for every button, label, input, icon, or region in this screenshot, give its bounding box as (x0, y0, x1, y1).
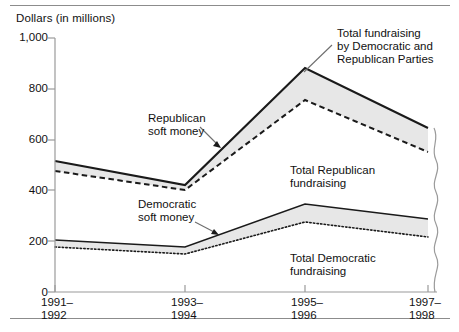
torn-edge-squiggle (434, 128, 438, 292)
leader-line-total-fundraising (304, 45, 332, 72)
annotation-republican-soft-money: Republican soft money (148, 112, 206, 138)
x-axis-ticks (55, 285, 428, 292)
figure-container: Dollars (in millions) 1,000 800 600 400 … (0, 0, 459, 332)
annotation-total-republican: Total Republican fundraising (290, 164, 375, 190)
annotation-total-fundraising: Total fundraising by Democratic and Repu… (337, 27, 434, 65)
annotation-total-democratic: Total Democratic fundraising (290, 252, 376, 278)
annotation-democratic-soft-money: Democratic soft money (138, 198, 196, 224)
leader-arrow-democratic-soft-money (195, 222, 219, 235)
y-axis-ticks (48, 38, 55, 292)
